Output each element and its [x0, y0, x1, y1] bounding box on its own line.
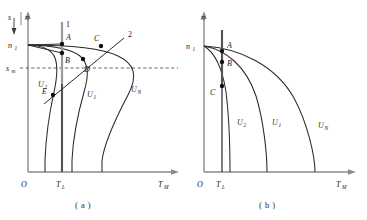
panel-a-TM-axis-subscript: M — [163, 184, 169, 190]
curve-UN — [28, 45, 134, 172]
point-A-marker — [60, 42, 64, 46]
label-point-D: D — [83, 65, 90, 74]
panel-b-label-curve-UN-subscript: N — [324, 125, 329, 131]
point-E-marker — [51, 93, 55, 97]
label-point-B: B — [65, 56, 70, 65]
label-curve-UN-subscript: N — [137, 89, 142, 95]
panel-b-TM-axis-subscript: M — [341, 184, 347, 190]
panel-b-point-A-marker — [220, 49, 224, 53]
panel-b-label-curve-U1-subscript: 1 — [279, 122, 282, 128]
panel-a-origin-label: O — [21, 180, 27, 189]
point-C-marker — [99, 44, 103, 48]
panel-b-point-C-marker — [220, 84, 224, 88]
slip-direction-arrowhead — [12, 28, 17, 35]
panel-b: n n 1 O T L T M A B C U 2 U 1 U N — [184, 0, 367, 220]
figure-container: s n n 1 s m O T L T M 1 2 A B C D E U 2 … — [0, 0, 367, 220]
caption-panel-b: ( b ) — [259, 200, 276, 210]
panel-a-TM-axis-label: T — [158, 180, 163, 189]
panel-a-speed-axis-label: n — [25, 13, 29, 22]
label-curve-U1-subscript: 1 — [94, 94, 97, 100]
panel-a: s n n 1 s m O T L T M 1 2 A B C D E U 2 … — [0, 0, 184, 220]
chord-n1-A — [28, 44, 62, 45]
label-point-C: C — [94, 34, 100, 43]
label-point-A: A — [65, 33, 71, 42]
panel-b-label-point-B: B — [227, 59, 232, 68]
panel-b-speed-axis-label: n — [201, 13, 205, 22]
panel-b-x-axis-arrowhead — [348, 169, 356, 175]
panel-b-point-B-marker — [220, 60, 224, 64]
label-curve-U2-subscript: 2 — [45, 84, 48, 90]
panel-b-TL-tick-label: T — [216, 180, 221, 189]
curve-U2 — [28, 45, 57, 172]
panel-a-plot: s n n 1 s m O T L T M 1 2 A B C D E U 2 … — [0, 0, 184, 200]
panel-b-plot: n n 1 O T L T M A B C U 2 U 1 U N — [184, 0, 367, 200]
panel-a-TL-tick-label: T — [56, 180, 61, 189]
point-D-marker — [81, 57, 85, 61]
panel-b-label-curve-U2-subscript: 2 — [244, 122, 247, 128]
panel-b-TL-tick-subscript: L — [221, 184, 225, 190]
curve-U1 — [28, 45, 87, 172]
caption-panel-a: ( a ) — [75, 200, 91, 210]
panel-a-sm-tick-subscript: m — [12, 68, 16, 74]
panel-a-x-axis-arrowhead — [171, 169, 179, 175]
panel-b-origin-label: O — [197, 180, 203, 189]
panel-b-label-point-A: A — [226, 41, 232, 50]
panel-b-curve-U1 — [204, 46, 267, 172]
panel-b-n1-tick-subscript: 1 — [193, 46, 196, 52]
panel-b-n1-tick-label: n — [186, 42, 190, 51]
point-B-marker — [60, 51, 64, 55]
panel-a-slip-axis-label: s — [8, 13, 11, 22]
panel-a-n1-tick-label: n — [8, 41, 12, 50]
panel-a-sm-tick-label: s — [6, 64, 9, 73]
label-load-line-2: 2 — [128, 30, 132, 39]
panel-a-TL-tick-subscript: L — [61, 184, 65, 190]
panel-a-n1-tick-subscript: 1 — [15, 45, 18, 51]
panel-b-label-point-C: C — [210, 88, 216, 97]
panel-b-TM-axis-label: T — [336, 180, 341, 189]
label-load-line-1: 1 — [66, 20, 70, 29]
